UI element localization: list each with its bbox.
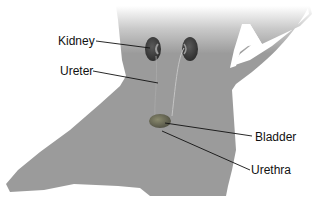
label-ureter: Ureter xyxy=(60,64,93,78)
bladder xyxy=(149,114,171,128)
right-kidney xyxy=(182,37,198,61)
left-kidney xyxy=(145,37,161,61)
label-urethra: Urethra xyxy=(251,163,291,177)
label-bladder: Bladder xyxy=(255,130,296,144)
label-kidney: Kidney xyxy=(58,34,95,48)
urinary-system-diagram: Kidney Ureter Bladder Urethra xyxy=(0,0,321,200)
